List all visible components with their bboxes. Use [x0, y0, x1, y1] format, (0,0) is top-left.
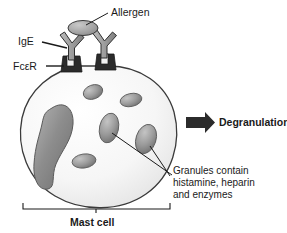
ige-leader-line — [42, 42, 67, 48]
arrow-right-icon — [186, 112, 215, 133]
allergen-label: Allergen — [111, 6, 150, 18]
mast-cell-label: Mast cell — [70, 216, 114, 228]
degranulation-label: Degranulation — [219, 116, 287, 128]
granules-text-line-2: histamine, heparin — [173, 177, 255, 188]
ige-label: IgE — [18, 35, 34, 47]
fcer-label: FcεR — [13, 60, 37, 72]
allergen-group — [68, 21, 98, 36]
allergen-ellipse — [68, 21, 98, 36]
diagram-canvas: Allergen IgE FcεR Degranulation Granules… — [0, 0, 287, 233]
mast-cell-diagram: Allergen IgE FcεR Degranulation Granules… — [0, 0, 287, 233]
granules-text-line-1: Granules contain — [173, 165, 249, 176]
allergen-leader-line — [86, 13, 108, 25]
granules-text-line-3: and enzymes — [173, 189, 232, 200]
degranulation-arrow — [186, 112, 215, 133]
